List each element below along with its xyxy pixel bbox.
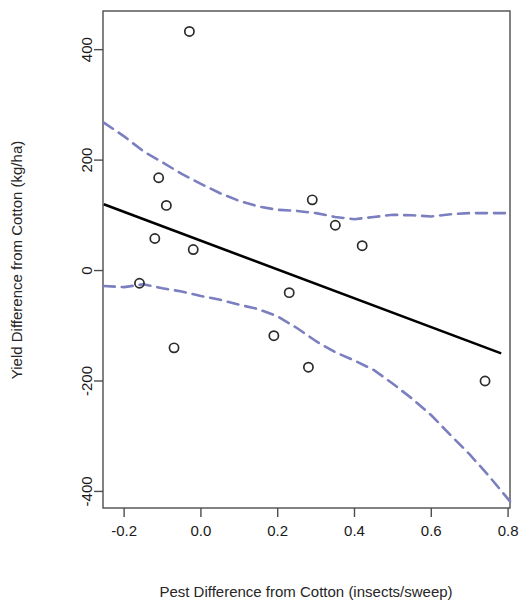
y-tick-label: -400 xyxy=(79,476,96,506)
y-tick-label: 200 xyxy=(79,148,96,173)
x-tick-label: 0.8 xyxy=(498,522,519,539)
x-tick-label: 0.2 xyxy=(267,522,288,539)
plot-canvas: -400-2000200400 -0.20.00.20.40.60.8 Yiel… xyxy=(0,0,521,611)
y-tick-label: 400 xyxy=(79,37,96,62)
figure-background xyxy=(0,0,521,611)
x-tick-label: 0.6 xyxy=(421,522,442,539)
x-tick-label: -0.2 xyxy=(111,522,137,539)
x-tick-label: 0.0 xyxy=(190,522,211,539)
y-tick-label: 0 xyxy=(79,266,96,274)
x-tick-label: 0.4 xyxy=(344,522,365,539)
scatter-plot-figure: -400-2000200400 -0.20.00.20.40.60.8 Yiel… xyxy=(0,0,521,611)
x-axis-label: Pest Difference from Cotton (insects/swe… xyxy=(159,583,452,600)
y-tick-label: -200 xyxy=(79,366,96,396)
y-axis-label: Yield Difference from Cotton (kg/ha) xyxy=(8,141,25,379)
